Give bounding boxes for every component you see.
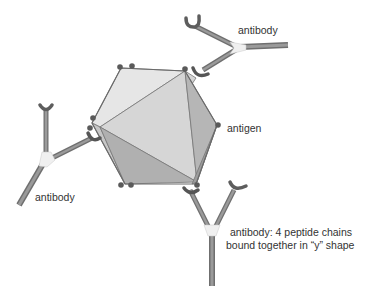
binding-site-icon xyxy=(129,63,135,69)
binding-site-icon xyxy=(117,64,123,70)
binding-site-icon xyxy=(215,122,221,128)
label-antibody-top: antibody xyxy=(238,24,278,36)
label-antibody-left: antibody xyxy=(35,191,75,203)
binding-site-free-icon xyxy=(230,182,246,188)
antibody-left xyxy=(19,105,92,205)
binding-site-icon xyxy=(118,182,124,188)
antigen-antibody-diagram: antibody antigen antibody antibody: 4 pe… xyxy=(0,0,369,298)
antibody-junction xyxy=(204,225,220,236)
binding-site-icon xyxy=(90,115,96,121)
binding-site-free-icon xyxy=(40,105,52,110)
antibody-junction xyxy=(230,42,246,54)
binding-site-icon xyxy=(87,125,93,131)
antigen-icosahedron xyxy=(87,63,221,192)
label-antigen: antigen xyxy=(227,122,262,134)
label-antibody-bottom-line1: antibody: 4 peptide chains xyxy=(230,226,352,238)
label-antibody-bottom-line2: bound together in “y” shape xyxy=(226,239,355,251)
binding-site-free-icon xyxy=(186,16,199,27)
binding-site-icon xyxy=(182,66,188,72)
binding-site-icon xyxy=(194,182,200,188)
antibody-junction xyxy=(39,152,55,167)
binding-site-icon xyxy=(128,182,134,188)
